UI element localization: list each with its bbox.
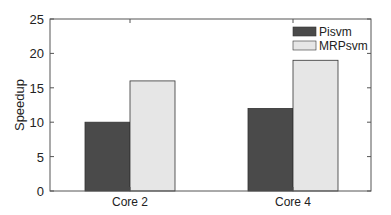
y-tick-label: 10 bbox=[30, 115, 44, 130]
legend-swatch-mrpsvm bbox=[293, 41, 316, 50]
y-tick-label: 20 bbox=[30, 46, 44, 61]
legend-swatch-pisvm bbox=[293, 27, 316, 36]
bars-group bbox=[85, 60, 338, 191]
bar-pisvm-core-4 bbox=[248, 108, 293, 191]
y-axis-label: Speedup bbox=[12, 79, 27, 131]
speedup-bar-chart: 0510152025 Core 2Core 4 Speedup PisvmMRP… bbox=[0, 0, 391, 215]
bar-pisvm-core-2 bbox=[85, 122, 130, 191]
y-tick-label: 15 bbox=[30, 81, 44, 96]
y-tick-label: 25 bbox=[30, 12, 44, 27]
y-tick-label: 5 bbox=[37, 150, 44, 165]
x-tick-label: Core 4 bbox=[275, 195, 311, 209]
bar-mrpsvm-core-4 bbox=[293, 60, 338, 191]
legend-label-mrpsvm: MRPsvm bbox=[319, 39, 368, 53]
legend: PisvmMRPsvm bbox=[293, 25, 368, 53]
y-tick-label: 0 bbox=[37, 184, 44, 199]
legend-label-pisvm: Pisvm bbox=[319, 25, 352, 39]
bar-mrpsvm-core-2 bbox=[130, 81, 175, 191]
x-tick-label: Core 2 bbox=[112, 195, 148, 209]
